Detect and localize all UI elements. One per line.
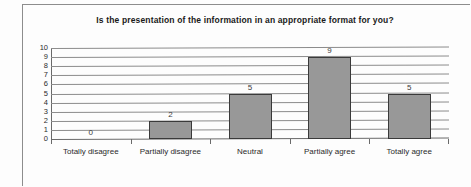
x-category-label: Totally disagree	[46, 147, 136, 156]
y-tick-label-9: 9	[28, 53, 48, 60]
x-tick	[51, 139, 52, 144]
y-tick-label-4: 4	[28, 99, 48, 106]
y-axis-tick-labels: 109876543210	[26, 48, 48, 139]
chart-figure: Is the presentation of the information i…	[0, 0, 471, 187]
x-category-label: Partially disagree	[125, 147, 215, 156]
x-axis-tick-labels: Totally disagreePartially disagreeNeutra…	[40, 147, 460, 163]
bar-value-labels: 02595	[51, 48, 449, 139]
x-tick	[210, 139, 211, 144]
x-category-label: Totally agree	[364, 147, 454, 156]
bar-value-label: 9	[310, 46, 350, 55]
y-tick-label-7: 7	[28, 71, 48, 78]
chart-title: Is the presentation of the information i…	[40, 15, 450, 25]
y-tick-label-3: 3	[28, 108, 48, 115]
x-category-label: Neutral	[205, 147, 295, 156]
x-tick	[448, 139, 449, 144]
bar-value-label: 5	[230, 83, 270, 92]
y-tick-label-8: 8	[28, 62, 48, 69]
bar-value-label: 5	[389, 83, 429, 92]
x-tick	[131, 139, 132, 144]
bar-value-label: 2	[150, 110, 190, 119]
x-tick	[369, 139, 370, 144]
y-tick-label-1: 1	[28, 126, 48, 133]
y-tick-label-10: 10	[28, 44, 48, 51]
y-tick-label-0: 0	[28, 135, 48, 142]
bar-value-label: 0	[71, 128, 111, 137]
y-tick-label-5: 5	[28, 90, 48, 97]
y-tick-label-6: 6	[28, 80, 48, 87]
x-tick	[290, 139, 291, 144]
x-category-label: Partially agree	[285, 147, 375, 156]
y-tick-label-2: 2	[28, 117, 48, 124]
x-axis-ticks	[51, 139, 449, 144]
